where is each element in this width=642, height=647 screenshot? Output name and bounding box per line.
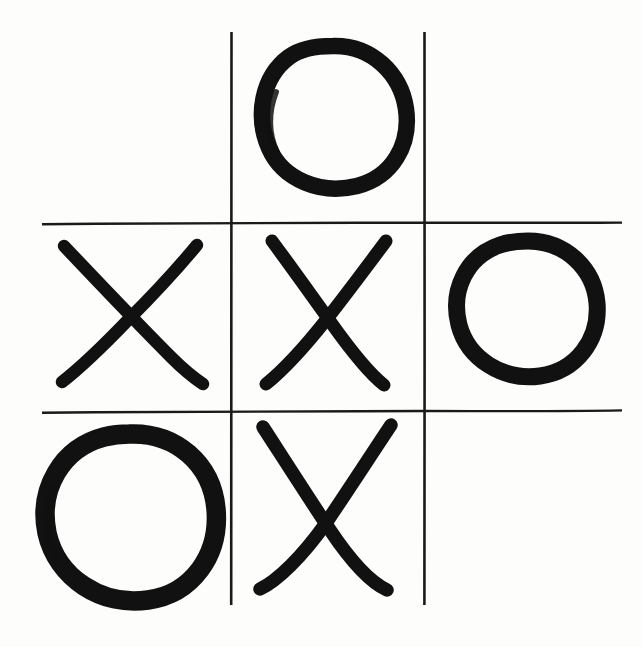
horizontal-line-bottom	[42, 410, 622, 412]
cell-middle-left[interactable]	[20, 228, 225, 406]
cell-middle-center[interactable]	[236, 228, 419, 406]
cell-top-right[interactable]	[430, 14, 622, 216]
horizontal-line-top	[42, 223, 622, 225]
cell-bottom-right[interactable]	[430, 418, 622, 623]
cell-bottom-left[interactable]	[20, 418, 225, 623]
board-canvas	[0, 0, 642, 647]
cell-hit-areas	[20, 14, 622, 623]
cell-top-left[interactable]	[20, 14, 225, 216]
cell-bottom-center[interactable]	[236, 418, 419, 623]
tic-tac-toe-board	[0, 0, 642, 647]
cell-middle-right[interactable]	[430, 228, 622, 406]
cell-top-center[interactable]	[236, 14, 419, 216]
